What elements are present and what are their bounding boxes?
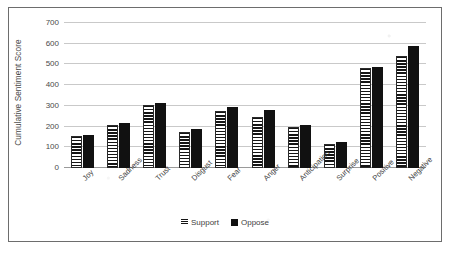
x-label-cell: Joy (64, 170, 100, 216)
bar-group (64, 23, 100, 168)
legend-label: Oppose (241, 218, 269, 227)
x-label-cell: Surprise (317, 170, 353, 216)
x-axis-labels: JoySadnessTrustDisgustFearAngerAnticipat… (64, 170, 426, 216)
y-tick-label: 100 (46, 142, 59, 151)
bar-group (281, 23, 317, 168)
bar-oppose[interactable] (372, 67, 383, 169)
y-tick-label: 600 (46, 38, 59, 47)
bar-oppose[interactable] (83, 135, 94, 168)
chart-figure: Cumulative Sentiment Score 7006005004003… (8, 7, 442, 242)
y-tick-label: 200 (46, 121, 59, 130)
bar-group (136, 23, 172, 168)
bar-group (245, 23, 281, 168)
bar-oppose[interactable] (264, 110, 275, 168)
y-tick-label: 300 (46, 100, 59, 109)
legend-entry[interactable]: Oppose (231, 218, 269, 227)
chart-inner: Cumulative Sentiment Score 7006005004003… (9, 8, 441, 241)
bar-support[interactable] (396, 56, 407, 168)
bar-oppose[interactable] (300, 125, 311, 168)
bar-group (317, 23, 353, 168)
bar-support[interactable] (179, 132, 190, 168)
bar-group (100, 23, 136, 168)
bar-support[interactable] (107, 125, 118, 168)
x-label-cell: Disgust (173, 170, 209, 216)
bar-support[interactable] (143, 105, 154, 168)
bar-oppose[interactable] (191, 129, 202, 168)
bar-support[interactable] (288, 127, 299, 168)
bar-support[interactable] (215, 111, 226, 168)
solid-swatch-icon (231, 219, 238, 226)
plot-area: 7006005004003002001000 (64, 23, 426, 168)
bar-oppose[interactable] (119, 123, 130, 168)
y-tick-label: 400 (46, 80, 59, 89)
legend-label: Support (191, 218, 219, 227)
x-label-cell: Fear (209, 170, 245, 216)
legend-entry[interactable]: Support (181, 218, 219, 227)
bars-layer (64, 23, 426, 168)
bar-group (173, 23, 209, 168)
chart-legend: SupportOppose (9, 218, 441, 227)
x-label-cell: Anger (245, 170, 281, 216)
bar-group (209, 23, 245, 168)
y-tick-label: 0 (55, 163, 59, 172)
bar-support[interactable] (252, 117, 263, 168)
x-tick-label: Joy (81, 168, 96, 183)
bar-support[interactable] (360, 68, 371, 168)
x-label-cell: Sadness (100, 170, 136, 216)
striped-swatch-icon (181, 219, 188, 226)
bar-oppose[interactable] (408, 46, 419, 168)
y-tick-label: 700 (46, 18, 59, 27)
y-tick-label: 500 (46, 59, 59, 68)
y-axis-title-label: Cumulative Sentiment Score (14, 39, 23, 145)
bar-support[interactable] (71, 136, 82, 168)
bar-oppose[interactable] (155, 103, 166, 168)
x-label-cell: Trust (136, 170, 172, 216)
bar-group (354, 23, 390, 168)
x-label-cell: Positive (354, 170, 390, 216)
bar-oppose[interactable] (227, 107, 238, 168)
bar-group (390, 23, 426, 168)
y-axis-title: Cumulative Sentiment Score (11, 8, 25, 176)
x-label-cell: Anticipation (281, 170, 317, 216)
x-label-cell: Negative (390, 170, 426, 216)
